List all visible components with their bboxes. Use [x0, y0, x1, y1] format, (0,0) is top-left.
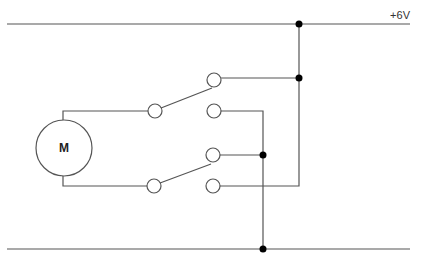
upper-throw-b-contact	[207, 104, 221, 118]
motor-lead-top	[63, 111, 148, 120]
junction-dot	[260, 246, 267, 253]
lower-throw-a-contact	[206, 148, 220, 162]
lower-switch-arm	[160, 164, 211, 183]
motor-label: M	[59, 141, 69, 155]
lower-throw-b-contact	[206, 179, 220, 193]
upper-switch-arm	[161, 88, 212, 108]
wire-upper-b-to-ground	[221, 111, 263, 249]
junction-dot	[296, 21, 303, 28]
supply-label: +6V	[390, 9, 411, 21]
upper-throw-a-contact	[207, 73, 221, 87]
circuit-diagram: +6V M	[0, 0, 421, 257]
lower-pole-contact	[147, 179, 161, 193]
junction-dot	[296, 75, 303, 82]
motor-lead-bottom	[63, 176, 147, 186]
wire-lower-b-to-positive	[220, 24, 299, 186]
upper-pole-contact	[148, 104, 162, 118]
junction-dot	[260, 152, 267, 159]
